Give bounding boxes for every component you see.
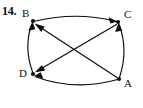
edge-d-to-b xyxy=(28,22,35,72)
edge-a-to-d xyxy=(34,72,118,85)
vertex-dot-b xyxy=(31,19,35,23)
vertex-dot-c xyxy=(116,20,120,24)
edge-b-to-c-path xyxy=(36,16,116,21)
vertex-label-d: D xyxy=(19,68,27,79)
edge-c-to-d-path xyxy=(38,25,117,71)
vertex-label-c: C xyxy=(124,9,131,20)
edge-b-to-c xyxy=(36,16,118,23)
edge-a-to-c-path xyxy=(119,25,124,77)
edge-d-to-b-path xyxy=(28,24,33,72)
figure-container: 14. xyxy=(0,0,143,108)
edge-a-to-b-arrowhead xyxy=(35,24,45,32)
edge-d-to-b-arrowhead xyxy=(28,22,35,31)
vertex-dot-d xyxy=(31,72,35,76)
edge-a-to-c xyxy=(115,23,124,77)
edge-c-to-d-arrowhead xyxy=(35,65,45,72)
edge-a-to-d-path xyxy=(36,77,118,85)
edge-a-to-b-path xyxy=(38,26,118,78)
vertex-label-b: B xyxy=(22,8,29,19)
vertex-label-a: A xyxy=(124,78,132,89)
vertex-dot-a xyxy=(117,77,121,81)
